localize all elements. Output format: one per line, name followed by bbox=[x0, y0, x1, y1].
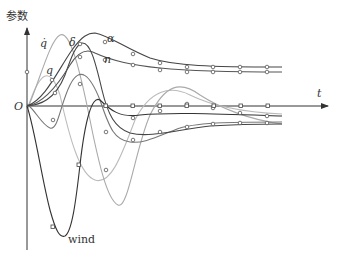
delta-label: δ bbox=[69, 36, 76, 49]
qdot-label: q̇ bbox=[40, 37, 47, 50]
y-axis-label: 参数 bbox=[6, 9, 28, 23]
curve-gray-2 bbox=[27, 76, 282, 181]
n-label: n bbox=[104, 53, 111, 66]
q-label: q bbox=[46, 64, 53, 77]
origin-label: O bbox=[14, 100, 23, 113]
curve-wind bbox=[27, 99, 282, 236]
curve-q bbox=[27, 74, 282, 142]
wind-label: wind bbox=[68, 233, 95, 246]
alpha-label: α bbox=[107, 32, 115, 45]
curve-delta bbox=[27, 43, 282, 135]
chart: 参数 t O α n δ q̇ q wind bbox=[0, 0, 347, 263]
x-axis-label: t bbox=[317, 87, 322, 100]
